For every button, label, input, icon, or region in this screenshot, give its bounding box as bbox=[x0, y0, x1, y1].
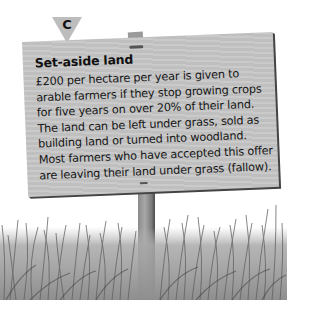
nail-icon bbox=[129, 45, 143, 49]
sign-body: £200 per hectare per year is given to ar… bbox=[35, 65, 274, 183]
section-marker-label: C bbox=[52, 18, 82, 32]
sign-title: Set-aside land bbox=[35, 52, 134, 71]
nail-icon bbox=[140, 182, 148, 184]
set-aside-sign: Set-aside land £200 per hectare per year… bbox=[22, 32, 279, 197]
sign-post bbox=[138, 190, 155, 295]
